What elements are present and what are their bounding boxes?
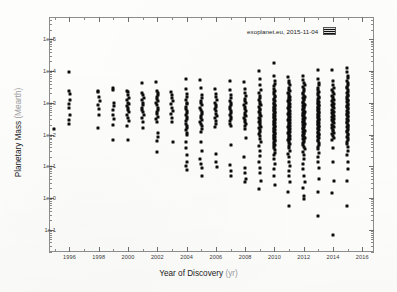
data-point (287, 190, 290, 193)
data-point (258, 145, 261, 148)
data-point (186, 160, 189, 163)
y-tick-minor-right (371, 199, 374, 200)
data-point (301, 75, 304, 78)
y-tick-minor (49, 231, 52, 232)
x-tick-label: 2010 (268, 254, 281, 260)
y-tick-minor-right (371, 61, 374, 62)
y-tick-minor-right (371, 49, 374, 50)
x-tick-label: 1998 (92, 254, 105, 260)
y-tick-minor-right (371, 81, 374, 82)
legend: exoplanet.eu, 2015-11-04 (247, 27, 336, 35)
data-point (288, 180, 291, 183)
y-tick-minor-right (371, 108, 374, 109)
x-tick-major (128, 247, 129, 252)
data-point (112, 88, 115, 91)
y-tick-minor-right (371, 239, 374, 240)
y-tick-minor (49, 171, 52, 172)
data-point (302, 153, 305, 156)
y-tick-minor-right (371, 24, 374, 25)
y-tick-minor (49, 205, 52, 206)
y-tick-minor (49, 49, 52, 50)
data-point (185, 169, 188, 172)
y-tick-minor-right (371, 44, 374, 45)
x-tick-major-top (128, 17, 129, 22)
y-tick-minor (49, 169, 52, 170)
x-tick-major-top (216, 17, 217, 22)
data-point (243, 80, 246, 83)
x-tick-major-top (157, 17, 158, 22)
y-tick-minor-right (371, 176, 374, 177)
x-tick-minor-top (113, 17, 114, 20)
data-point (274, 162, 277, 165)
y-tick-minor (49, 242, 52, 243)
x-tick-minor-top (260, 17, 261, 20)
y-tick-minor (49, 235, 52, 236)
y-tick-minor-right (371, 20, 374, 21)
x-tick-label: 2000 (122, 254, 135, 260)
data-point (113, 104, 116, 107)
y-tick-minor (49, 104, 52, 105)
data-point (288, 160, 291, 163)
x-axis-title-unit: (yr) (225, 269, 237, 278)
y-tick-minor-right (371, 78, 374, 79)
y-tick-minor (49, 17, 52, 18)
data-point (273, 174, 276, 177)
data-point (126, 124, 129, 127)
data-point (259, 88, 262, 91)
plot-data-area[interactable] (49, 17, 374, 252)
data-point (126, 139, 129, 142)
x-tick-minor (143, 249, 144, 252)
data-point (200, 166, 203, 169)
data-point (111, 108, 114, 111)
data-point (97, 103, 100, 106)
y-tick-minor (49, 147, 52, 148)
y-tick-minor-right (371, 168, 374, 169)
x-tick-major (69, 247, 70, 252)
data-point (301, 162, 304, 165)
y-tick-minor-right (371, 205, 374, 206)
data-point (199, 78, 202, 81)
data-point (170, 112, 173, 115)
data-point (199, 157, 202, 160)
data-point (332, 234, 335, 237)
x-tick-label: 2014 (327, 254, 340, 260)
data-point (316, 191, 319, 194)
y-tick-minor-right (371, 74, 374, 75)
y-tick-minor-right (371, 138, 374, 139)
data-point (345, 179, 348, 182)
data-point (259, 84, 262, 87)
x-tick-minor-top (84, 17, 85, 20)
data-point (112, 113, 115, 116)
y-tick-minor (49, 42, 52, 43)
data-point (229, 124, 232, 127)
y-tick-minor (49, 139, 52, 140)
y-tick-minor (49, 199, 52, 200)
data-point (97, 91, 100, 94)
x-tick-minor (84, 249, 85, 252)
data-point (215, 160, 218, 163)
data-point (156, 120, 159, 123)
y-tick-minor-right (371, 52, 374, 53)
data-point (186, 134, 189, 137)
y-tick-minor-right (371, 233, 374, 234)
y-tick-minor-right (371, 72, 374, 73)
y-tick-minor (49, 84, 52, 85)
y-tick-minor (49, 119, 52, 120)
data-point (258, 150, 261, 153)
data-point (244, 127, 247, 130)
data-point (332, 160, 335, 163)
y-tick-minor (49, 88, 52, 89)
y-tick-minor (49, 125, 52, 126)
x-tick-minor-top (143, 17, 144, 20)
data-point (141, 121, 144, 124)
data-point (185, 87, 188, 90)
y-tick-minor-right (371, 76, 374, 77)
data-point (171, 121, 174, 124)
data-point (68, 106, 71, 109)
data-point (112, 118, 115, 121)
y-tick-minor-right (371, 46, 374, 47)
y-tick-minor (49, 208, 52, 209)
data-point (229, 88, 232, 91)
y-tick-minor-right (371, 171, 374, 172)
y-tick-minor (49, 179, 52, 180)
